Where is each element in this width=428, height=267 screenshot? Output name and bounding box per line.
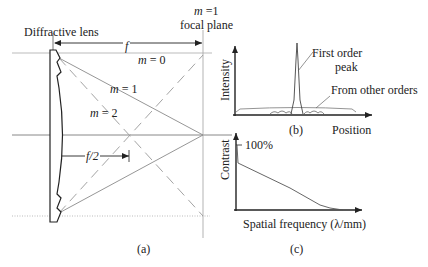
peak-leader-line [298, 52, 313, 71]
b-xlabel: Position [332, 124, 371, 136]
half-focal-length-label: f/2 [85, 150, 100, 162]
panel-a-ray-diagram [12, 30, 232, 238]
focal-plane-label: focal plane [180, 19, 233, 31]
other-orders-leader-line [316, 96, 330, 108]
order-m1-label: m = 1 [110, 83, 137, 95]
ray-m1-bottom [59, 135, 203, 213]
lens-label: Diffractive lens [24, 26, 99, 38]
other-orders-annotation: From other orders [331, 84, 418, 96]
other-orders-curve [236, 108, 356, 113]
c-xlabel: Spatial frequency (λ/mm) [243, 218, 366, 230]
ray-m1-top [59, 58, 203, 135]
caption-b: (b) [289, 124, 303, 136]
mtf-curve [237, 145, 343, 210]
caption-a: (a) [137, 243, 150, 255]
b-ylabel: Intensity [219, 59, 231, 101]
first-order-peak [291, 43, 303, 114]
diffractive-lens-shape [50, 50, 63, 222]
ray-m2-bottom [59, 55, 203, 213]
peak-annotation-line2: peak [335, 61, 358, 73]
peak-annotation-line1: First order [312, 47, 362, 59]
caption-c: (c) [290, 243, 303, 255]
c-ylabel: Contrast [219, 139, 231, 180]
order-m0-label: m = 0 [138, 54, 165, 66]
c-tick-100: 100% [245, 139, 273, 151]
focal-length-label: f [123, 40, 130, 52]
side-lobes-curve [270, 111, 324, 114]
focal-plane-order-label: m =1 [194, 5, 218, 17]
order-m2-label: m = 2 [90, 107, 117, 119]
